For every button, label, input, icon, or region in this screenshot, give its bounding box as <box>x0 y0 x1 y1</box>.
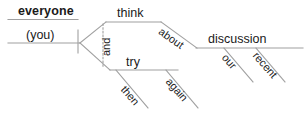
word-conjunction: and <box>101 38 112 56</box>
word-verb-lower: try <box>126 56 140 69</box>
word-subject: everyone <box>18 5 74 18</box>
word-object: discussion <box>208 33 266 46</box>
word-subject-alt: (you) <box>26 29 54 42</box>
sentence-diagram: everyone (you) think try discussion and … <box>0 0 308 117</box>
word-verb-upper: think <box>117 7 143 20</box>
